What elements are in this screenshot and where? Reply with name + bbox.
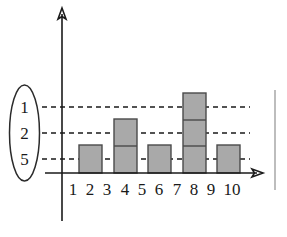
x-tick-label-6: 6 — [155, 180, 164, 199]
bar-10 — [217, 145, 240, 173]
x-tick-label-10: 10 — [224, 180, 241, 199]
x-tick-labels-group: 1 2 3 4 5 6 7 8 9 10 — [69, 180, 241, 199]
x-axis-arrow-icon — [252, 169, 263, 177]
figure-canvas: 1 2 5 1 2 3 4 5 6 7 8 9 10 — [0, 0, 287, 237]
y-tick-label-2: 2 — [20, 124, 29, 143]
y-tick-label-3: 5 — [20, 150, 29, 169]
bar-2 — [79, 145, 102, 173]
x-tick-label-8: 8 — [190, 180, 199, 199]
x-tick-label-1: 1 — [69, 180, 78, 199]
bar-6 — [148, 145, 171, 173]
x-tick-label-4: 4 — [121, 180, 130, 199]
x-tick-label-9: 9 — [207, 180, 216, 199]
bar-8 — [183, 93, 206, 173]
x-tick-label-5: 5 — [138, 180, 147, 199]
y-axis-arrow-icon — [58, 8, 66, 19]
x-tick-label-2: 2 — [86, 180, 95, 199]
x-tick-label-3: 3 — [103, 180, 112, 199]
x-tick-label-7: 7 — [173, 180, 182, 199]
bar-chart: 1 2 5 1 2 3 4 5 6 7 8 9 10 — [0, 0, 287, 237]
y-tick-label-1: 1 — [20, 98, 29, 117]
